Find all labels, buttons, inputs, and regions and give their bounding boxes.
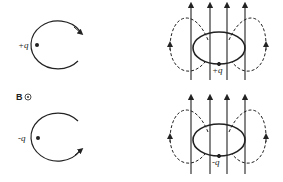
field-indicator: B — [16, 92, 31, 102]
orbit-minus-q: -q — [18, 113, 81, 161]
field-pattern-minus-q: -q — [170, 97, 266, 174]
charge-dot — [36, 136, 40, 140]
label-B: B — [16, 92, 23, 102]
label-plus-q: +q — [18, 40, 29, 50]
charge-dot — [35, 43, 39, 47]
label-minus-q-right: -q — [212, 157, 220, 167]
label-minus-q: -q — [18, 133, 26, 143]
orbit-plus-q: +q — [18, 21, 81, 69]
magnetic-field-diagram: +q B -q +q -q — [0, 0, 283, 182]
field-pattern-plus-q: +q — [170, 5, 266, 80]
label-plus-q-right: +q — [212, 65, 223, 75]
